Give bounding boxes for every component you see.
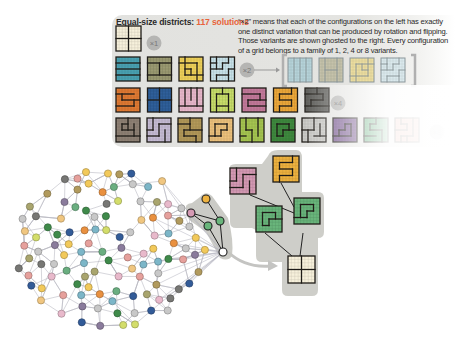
network-node <box>48 273 55 280</box>
network-node <box>127 229 134 236</box>
network-node <box>19 215 26 222</box>
network-node <box>103 227 110 234</box>
network-node <box>164 212 171 219</box>
network-node <box>140 261 147 268</box>
network-node <box>109 298 116 305</box>
network-node <box>140 250 147 257</box>
multiplier-badge-x1: ×1 <box>147 36 162 51</box>
config-grid-row4 <box>302 118 326 142</box>
config-grid-row4 <box>333 118 357 142</box>
network-node <box>115 197 122 204</box>
config-grid-row2 <box>148 57 172 81</box>
diagram-canvas: ×1×2×4×8 <box>0 0 455 347</box>
network-node <box>66 229 73 236</box>
network-node <box>180 256 187 263</box>
network-node <box>186 223 193 230</box>
tree-node-empty <box>288 256 315 283</box>
config-grid-row4 <box>209 118 233 142</box>
network-node <box>97 322 104 329</box>
network-node <box>138 216 145 223</box>
network-node <box>124 254 131 261</box>
network-node <box>153 281 160 288</box>
network-node <box>164 307 171 314</box>
network-node <box>79 303 86 310</box>
network-node <box>99 248 106 255</box>
config-grid-row4 <box>147 118 171 142</box>
network-node <box>114 310 121 317</box>
network-node <box>92 226 99 233</box>
network-node <box>116 233 123 240</box>
network-node <box>110 183 117 190</box>
network-node <box>37 297 44 304</box>
network-node <box>129 181 136 188</box>
network-node <box>91 268 98 275</box>
highlighted-node <box>187 209 195 217</box>
network-node <box>61 198 68 205</box>
network-node <box>130 293 137 300</box>
network-node <box>44 224 51 231</box>
config-grid-row2 <box>179 57 203 81</box>
network-node <box>35 248 42 255</box>
network-node <box>159 178 166 185</box>
network-node <box>131 321 138 328</box>
config-grid-row3 <box>274 88 298 112</box>
bracket-right <box>411 55 415 86</box>
network-node <box>153 198 160 205</box>
network-node <box>74 186 81 193</box>
multiplier-badge-x4: ×4 <box>331 96 346 111</box>
ghost-variant-grid <box>319 58 343 82</box>
network-node <box>54 231 61 238</box>
config-grid-row4 <box>395 118 419 142</box>
solution-network <box>15 169 232 330</box>
network-node <box>105 257 112 264</box>
ghost-variant-grid <box>381 58 405 82</box>
highlighted-node <box>204 222 212 230</box>
network-node <box>120 321 127 328</box>
svg-text:×2: ×2 <box>243 66 252 75</box>
network-node <box>63 267 70 274</box>
network-node <box>165 255 172 262</box>
network-node <box>91 213 98 220</box>
network-node <box>151 232 158 239</box>
network-node <box>131 310 138 317</box>
highlighted-node <box>202 195 210 203</box>
network-node <box>165 201 172 208</box>
network-node <box>81 227 88 234</box>
network-node <box>136 273 143 280</box>
network-node <box>85 240 92 247</box>
tree-node-pink <box>230 168 256 194</box>
network-node <box>102 213 109 220</box>
network-node <box>61 176 68 183</box>
network-node <box>195 268 202 275</box>
network-node <box>15 265 22 272</box>
network-node <box>78 292 85 299</box>
svg-text:×1: ×1 <box>150 39 159 48</box>
network-node <box>26 255 33 262</box>
network-node <box>191 251 198 258</box>
network-node <box>99 189 106 196</box>
network-node <box>182 245 189 252</box>
network-node <box>57 215 64 222</box>
network-node <box>82 207 89 214</box>
network-node <box>80 260 87 267</box>
tree-node-green-left <box>256 206 282 232</box>
ghost-variant-grid <box>288 58 312 82</box>
network-node <box>165 230 172 237</box>
empty-grid <box>116 26 141 51</box>
network-node <box>32 213 39 220</box>
network-node <box>156 296 163 303</box>
network-node <box>155 270 162 277</box>
network-node <box>85 180 92 187</box>
network-node <box>50 260 57 267</box>
highlighted-node <box>219 248 227 256</box>
network-node <box>60 292 67 299</box>
bracket-left <box>283 55 287 86</box>
config-grid-row3 <box>242 88 266 112</box>
config-grid-row3 <box>116 88 140 112</box>
network-node <box>118 244 125 251</box>
arrow-head-icon <box>276 68 280 73</box>
config-grid-row2 <box>211 57 235 81</box>
network-node <box>116 171 123 178</box>
multiplier-badge-x2: ×2 <box>240 63 255 78</box>
network-node <box>149 214 156 221</box>
